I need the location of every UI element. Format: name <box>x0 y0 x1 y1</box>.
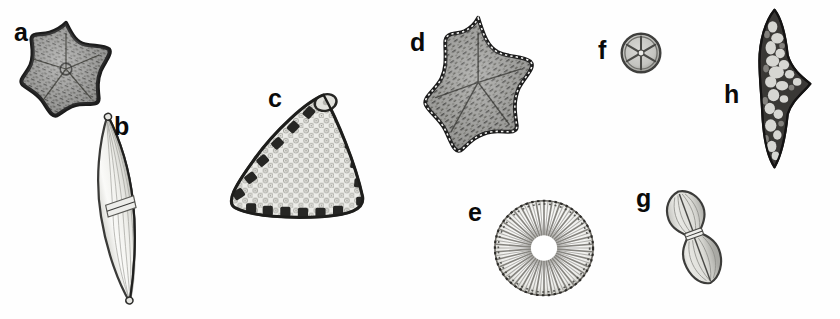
panel-label-a: a <box>14 20 27 45</box>
specimen-h-chevron-fragment <box>750 6 816 172</box>
panel-label-f: f <box>598 38 606 63</box>
specimen-f-segmented-disc-diatom <box>618 30 664 76</box>
panel-label-e: e <box>468 200 481 225</box>
panel-label-g: g <box>636 186 651 211</box>
panel-label-c: c <box>268 86 281 111</box>
specimen-f-central-area <box>638 50 644 56</box>
panel-label-d: d <box>410 30 425 55</box>
figure-plate: a <box>0 0 840 319</box>
panel-label-h: h <box>724 82 739 107</box>
specimen-g-panduriform-diatom <box>668 186 722 288</box>
panel-label-b: b <box>114 114 129 139</box>
specimen-a-star-diatom <box>18 20 114 118</box>
specimen-c-triangular-diatom <box>222 88 370 224</box>
specimen-d-star-diatom <box>424 14 540 166</box>
specimen-e-radial-disc-diatom <box>490 196 598 300</box>
